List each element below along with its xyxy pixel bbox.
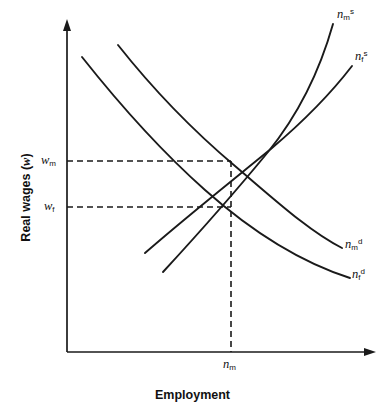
curve-label-supply-male-sub: m <box>343 13 350 22</box>
curve-label-demand-male: nmd <box>345 238 362 252</box>
diagram-canvas <box>0 0 385 413</box>
curve-demand-female <box>82 57 350 278</box>
curve-demand-male <box>118 45 342 248</box>
curve-supply-male <box>163 24 333 272</box>
curve-label-demand-male-sup: d <box>358 237 362 246</box>
tick-label-employment-male: nm <box>223 358 236 372</box>
x-axis-title: Employment <box>0 388 385 402</box>
tick-label-wage-female: wf <box>44 200 55 214</box>
curve-label-supply-male: nms <box>337 8 354 22</box>
curve-label-supply-female: nfs <box>355 50 367 64</box>
y-axis-title-symbol: w <box>19 158 33 166</box>
y-axis-arrowhead <box>63 19 71 31</box>
tick-label-wage-female-sub: f <box>52 205 54 214</box>
y-axis-title: Real wages (w) <box>19 128 34 268</box>
y-axis-title-text: Real wages ( <box>19 166 33 242</box>
labour-market-diagram: nms nfs nmd nfd wm wf nm Real wages (w) … <box>0 0 385 413</box>
curve-label-demand-female: nfd <box>352 268 365 282</box>
tick-label-wage-male: wm <box>41 154 56 168</box>
y-axis-title-close: ) <box>19 153 33 157</box>
tick-label-employment-male-sub: m <box>229 363 236 372</box>
tick-label-wage-male-sub: m <box>49 159 56 168</box>
curve-label-demand-female-sup: d <box>360 267 364 276</box>
curve-label-supply-female-sup: s <box>363 49 367 58</box>
x-axis-arrowhead <box>364 348 376 356</box>
curve-label-supply-male-sup: s <box>350 7 354 16</box>
curve-label-demand-male-sub: m <box>351 243 358 252</box>
